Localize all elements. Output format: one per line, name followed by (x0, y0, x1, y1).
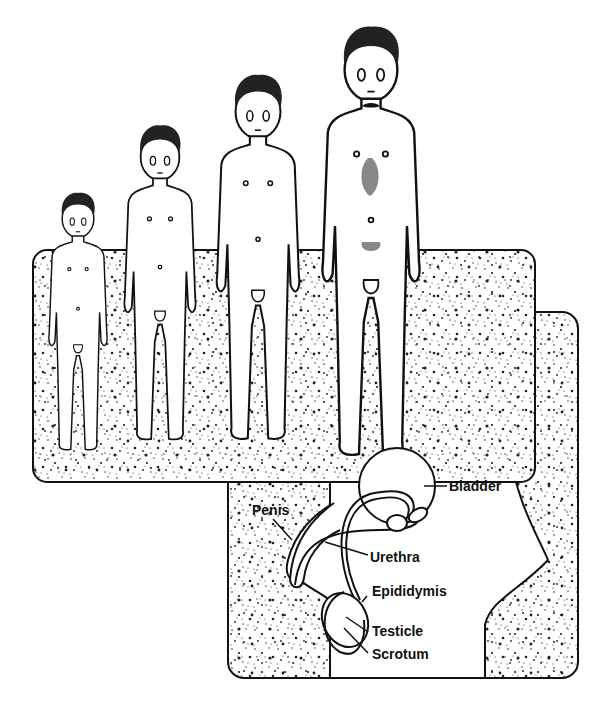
illustration: Bladder Penis Urethra Epididymis Testicl… (0, 0, 609, 718)
label-penis: Penis (252, 502, 289, 518)
prostate-shape (387, 515, 407, 531)
label-bladder: Bladder (449, 478, 501, 494)
label-epididymis: Epididymis (372, 583, 447, 599)
label-testicle: Testicle (372, 623, 423, 639)
illustration-canvas (0, 0, 609, 718)
label-scrotum: Scrotum (372, 646, 429, 662)
label-urethra: Urethra (370, 549, 420, 565)
